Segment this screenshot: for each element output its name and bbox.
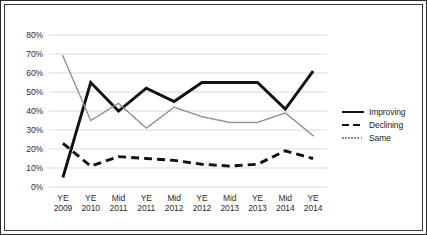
plot-area xyxy=(49,35,327,187)
x-tick-period: YE xyxy=(296,193,330,203)
y-axis-tick-label: 20% xyxy=(5,145,43,154)
x-tick-year: 2014 xyxy=(296,203,330,213)
y-axis-tick-label: 70% xyxy=(5,50,43,59)
legend-label: Declining xyxy=(369,120,403,130)
series-group xyxy=(63,56,313,178)
legend-swatch-icon xyxy=(341,133,365,143)
x-axis-tick-label: YE2014 xyxy=(296,193,330,213)
chart-legend: ImprovingDecliningSame xyxy=(341,105,405,144)
y-axis-tick-label: 0% xyxy=(5,183,43,192)
y-axis-tick-label: 50% xyxy=(5,88,43,97)
series-line-same xyxy=(63,56,313,136)
y-axis-tick-label: 80% xyxy=(5,31,43,40)
legend-label: Improving xyxy=(369,107,405,117)
y-axis-tick-label: 60% xyxy=(5,69,43,78)
legend-item-same[interactable]: Same xyxy=(341,131,405,144)
legend-item-declining[interactable]: Declining xyxy=(341,118,405,131)
chart-frame-inner: 0%10%20%30%40%50%60%70%80% YE2009YE2010M… xyxy=(4,4,423,231)
chart-frame: 0%10%20%30%40%50%60%70%80% YE2009YE2010M… xyxy=(0,0,427,235)
y-axis-tick-label: 10% xyxy=(5,164,43,173)
y-axis-tick-label: 40% xyxy=(5,107,43,116)
y-axis-tick-label: 30% xyxy=(5,126,43,135)
plot-svg xyxy=(49,35,327,187)
legend-swatch-icon xyxy=(341,120,365,130)
series-line-declining xyxy=(63,143,313,166)
line-chart: 0%10%20%30%40%50%60%70%80% YE2009YE2010M… xyxy=(5,5,426,234)
legend-label: Same xyxy=(369,133,391,143)
legend-swatch-icon xyxy=(341,107,365,117)
legend-item-improving[interactable]: Improving xyxy=(341,105,405,118)
